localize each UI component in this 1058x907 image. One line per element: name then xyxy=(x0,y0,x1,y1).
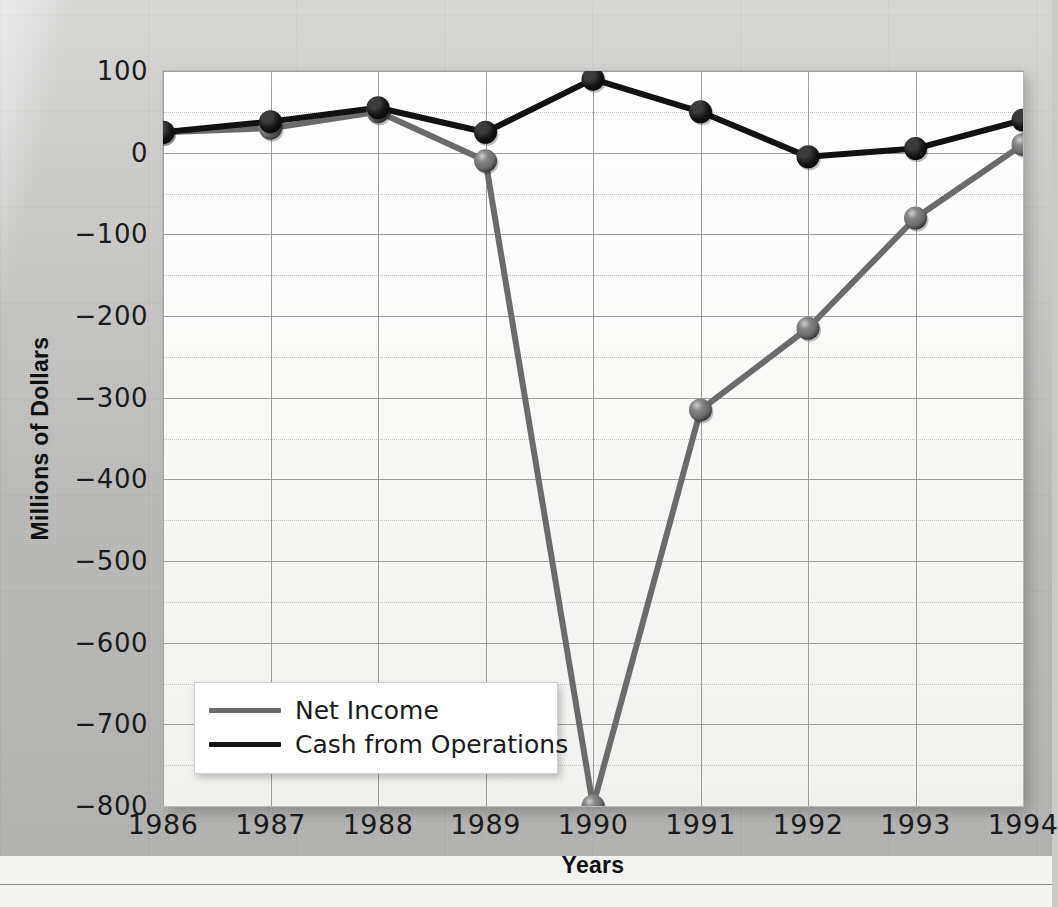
x-tick-label: 1988 xyxy=(343,809,414,840)
y-tick-label: −600 xyxy=(75,628,148,658)
legend-item: Net Income xyxy=(209,693,543,727)
y-tick-label: −700 xyxy=(75,709,148,739)
data-point-marker[interactable] xyxy=(797,145,820,168)
x-tick-label: 1989 xyxy=(450,809,521,840)
page-divider-rule xyxy=(0,884,1052,885)
legend-color-swatch xyxy=(209,742,281,747)
x-tick-label: 1994 xyxy=(988,809,1058,840)
x-tick-label: 1987 xyxy=(235,809,306,840)
data-point-marker[interactable] xyxy=(474,149,497,172)
x-tick-label: 1990 xyxy=(558,809,629,840)
y-tick-label: 0 xyxy=(131,138,148,168)
data-point-marker[interactable] xyxy=(904,207,927,230)
data-point-marker[interactable] xyxy=(797,317,820,340)
y-tick-label: −100 xyxy=(75,219,148,249)
y-axis-tick-labels: 1000−100−200−300−400−500−600−700−800 xyxy=(18,71,156,806)
data-point-marker[interactable] xyxy=(474,121,497,144)
x-axis-title: Years xyxy=(163,852,1023,879)
data-point-marker[interactable] xyxy=(689,398,712,421)
data-point-marker[interactable] xyxy=(689,100,712,123)
chart-figure: Millions of Dollars 1000−100−200−300−400… xyxy=(18,16,1030,848)
legend-item-label: Net Income xyxy=(295,696,439,725)
x-tick-label: 1986 xyxy=(128,809,199,840)
y-tick-label: −400 xyxy=(75,464,148,494)
chart-legend: Net IncomeCash from Operations xyxy=(194,682,558,774)
data-point-marker[interactable] xyxy=(904,137,927,160)
y-tick-label: 100 xyxy=(97,56,148,86)
data-point-marker[interactable] xyxy=(582,795,605,807)
data-point-marker[interactable] xyxy=(367,96,390,119)
legend-item-label: Cash from Operations xyxy=(295,730,568,759)
y-tick-label: −300 xyxy=(75,383,148,413)
legend-color-swatch xyxy=(209,708,281,713)
x-tick-label: 1991 xyxy=(665,809,736,840)
y-tick-label: −500 xyxy=(75,546,148,576)
legend-item: Cash from Operations xyxy=(209,727,543,761)
x-axis-tick-labels: 198619871988198919901991199219931994 xyxy=(163,809,1023,849)
data-point-marker[interactable] xyxy=(259,110,282,133)
data-point-marker[interactable] xyxy=(1012,109,1024,132)
x-tick-label: 1992 xyxy=(773,809,844,840)
y-tick-label: −200 xyxy=(75,301,148,331)
x-tick-label: 1993 xyxy=(880,809,951,840)
